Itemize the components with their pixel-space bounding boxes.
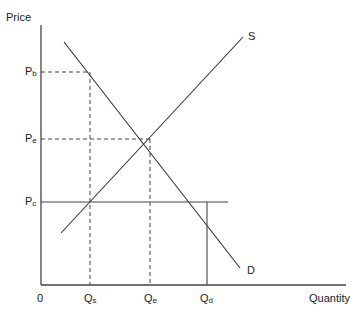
y-axis-label: Price [6, 12, 31, 23]
price-label-pb: Pb [25, 66, 37, 78]
supply-demand-diagram [0, 0, 362, 317]
quantity-label-qe: Qe [144, 293, 157, 305]
quantity-label-qd: Qd [200, 293, 213, 305]
price-label-pc: Pc [25, 196, 36, 208]
price-label-pe: Pe [25, 133, 37, 145]
quantity-label-qs: Qs [84, 293, 97, 305]
origin-label: 0 [37, 293, 43, 304]
supply-curve [61, 37, 243, 233]
demand-label: D [247, 265, 255, 276]
supply-label: S [248, 31, 255, 42]
x-axis-label: Quantity [309, 293, 350, 304]
